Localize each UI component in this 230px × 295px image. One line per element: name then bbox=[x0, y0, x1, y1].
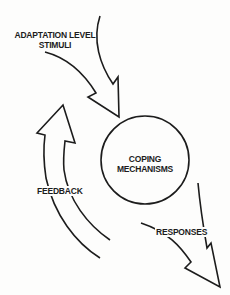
adaptation-label-line2: STIMULI bbox=[10, 40, 100, 50]
feedback-arrow bbox=[37, 105, 110, 258]
node-adaptation-stimuli: ADAPTATION LEVEL STIMULI bbox=[10, 30, 100, 50]
coping-label-line2: MECHANISMS bbox=[112, 164, 178, 174]
feedback-label: FEEDBACK bbox=[36, 186, 84, 196]
adaptation-label-line1: ADAPTATION LEVEL bbox=[10, 30, 100, 40]
node-coping-mechanisms: COPING MECHANISMS bbox=[112, 154, 178, 174]
node-responses: RESPONSES bbox=[155, 227, 208, 237]
coping-label-line1: COPING bbox=[112, 154, 178, 164]
diagram-canvas: ADAPTATION LEVEL STIMULI COPING MECHANIS… bbox=[0, 0, 230, 295]
